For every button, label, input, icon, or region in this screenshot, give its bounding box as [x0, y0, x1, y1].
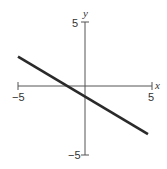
y-axis-label: y: [82, 7, 88, 19]
x-min-label: −5: [12, 91, 25, 103]
plotted-line: [18, 57, 148, 134]
y-max-label: 5: [72, 17, 78, 29]
y-min-label: −5: [68, 149, 81, 161]
x-max-label: 5: [148, 91, 154, 103]
coordinate-plane: y 5 −5 x −5 5: [0, 0, 167, 169]
x-axis-label: x: [154, 79, 160, 91]
